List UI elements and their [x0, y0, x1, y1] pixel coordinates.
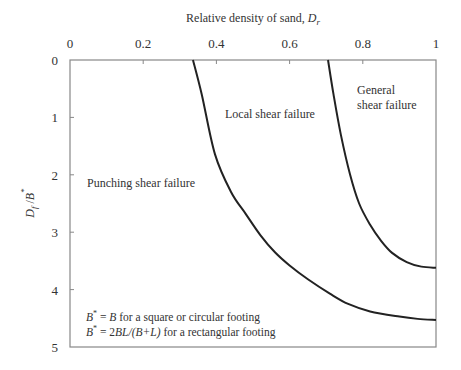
- annotation-general-shear-line2: shear failure: [357, 98, 417, 112]
- y-tick-label: 4: [52, 283, 59, 298]
- y-tick-label: 0: [52, 53, 59, 68]
- note-rectangular: B* = 2BL/(B+L) for a rectangular footing: [86, 324, 276, 339]
- x-tick-label: 0: [67, 36, 74, 51]
- y-axis-title: Df /B*: [19, 188, 39, 219]
- annotation-local-shear: Local shear failure: [225, 107, 315, 121]
- x-tick-label: 0.8: [355, 36, 371, 51]
- note-square-circular: B* = B for a square or circular footing: [86, 309, 260, 324]
- x-tick-label: 1: [433, 36, 440, 51]
- x-axis-title: Relative density of sand, Dr: [186, 11, 320, 27]
- y-tick-label: 3: [52, 225, 59, 240]
- x-tick-label: 0.6: [281, 36, 298, 51]
- annotation-punching-shear: Punching shear failure: [87, 176, 195, 190]
- chart: Relative density of sand, Dr Df /B* 00.2…: [0, 0, 461, 370]
- annotation-general-shear-line1: General: [357, 83, 396, 97]
- y-tick-label: 2: [52, 168, 59, 183]
- x-tick-label: 0.4: [208, 36, 225, 51]
- x-tick-label: 0.2: [135, 36, 151, 51]
- y-tick-label: 5: [52, 340, 59, 355]
- y-tick-label: 1: [52, 110, 59, 125]
- y-axis: 012345: [52, 53, 75, 355]
